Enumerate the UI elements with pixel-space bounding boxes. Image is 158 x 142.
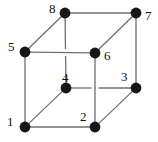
vertex-label-2: 2 — [80, 110, 87, 123]
vertex-label-4: 4 — [62, 71, 69, 84]
vertex-label-1: 1 — [7, 115, 14, 128]
cube-vertex-2[interactable] — [90, 122, 101, 133]
vertex-label-3: 3 — [121, 70, 128, 83]
cube-edge-5-6 — [29, 52, 91, 53]
cube-vertex-6[interactable] — [90, 48, 101, 59]
vertex-label-7: 7 — [145, 9, 152, 22]
cube-edge-5-8 — [28, 16, 62, 49]
vertex-label-8: 8 — [49, 2, 56, 15]
cube-vertex-3[interactable] — [131, 83, 142, 94]
cube-vertex-7[interactable] — [131, 8, 142, 19]
vertex-label-6: 6 — [104, 49, 111, 62]
vertex-label-5: 5 — [8, 40, 15, 53]
cube-vertex-8[interactable] — [60, 8, 71, 19]
cube-edge-2-3 — [98, 91, 133, 124]
cube-diagram-canvas: 12345678 — [0, 0, 158, 142]
cube-graphic — [0, 0, 158, 142]
cube-edge-6-7 — [98, 16, 133, 50]
cube-vertex-1[interactable] — [20, 122, 31, 133]
cube-edge-1-4 — [28, 91, 63, 124]
cube-vertex-5[interactable] — [20, 47, 31, 58]
